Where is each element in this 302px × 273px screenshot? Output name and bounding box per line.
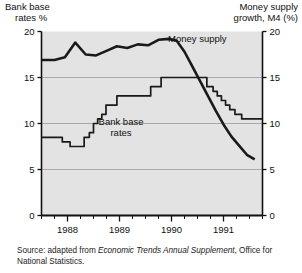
ytick-label-right-20: 20 (270, 26, 281, 37)
ytick-label-left-5: 5 (29, 164, 34, 175)
money-supply-series-label: Money supply (168, 33, 227, 44)
ytick-label-left-20: 20 (24, 26, 35, 37)
ytick-label-right-0: 0 (270, 210, 275, 221)
source-publication: Economic Trends Annual Supplement (98, 246, 235, 255)
source-prefix: Source: adapted from (17, 246, 98, 255)
ytick-label-left-0: 0 (29, 210, 34, 221)
xtick-label-1989: 1989 (109, 224, 130, 235)
xtick-label-1988: 1988 (57, 224, 78, 235)
ytick-label-left-15: 15 (24, 72, 35, 83)
ytick-label-left-10: 10 (24, 118, 35, 129)
bank-base-label-line1: Bank base (99, 116, 144, 127)
xtick-label-1990: 1990 (161, 224, 182, 235)
xtick-label-1991: 1991 (213, 224, 234, 235)
ytick-label-right-5: 5 (270, 164, 275, 175)
ytick-label-right-15: 15 (270, 72, 281, 83)
source-note: Source: adapted from Economic Trends Ann… (17, 245, 289, 267)
bank-base-label-line2: rates (110, 127, 131, 138)
bank-base-rates-money-supply-chart: Bank base rates % Money supply growth, M… (0, 0, 302, 273)
chart-plot: 19881989199019910510152005101520 (0, 0, 302, 245)
ytick-label-right-10: 10 (270, 118, 281, 129)
bank-base-rates-series-label: Bank base rates (88, 105, 143, 149)
